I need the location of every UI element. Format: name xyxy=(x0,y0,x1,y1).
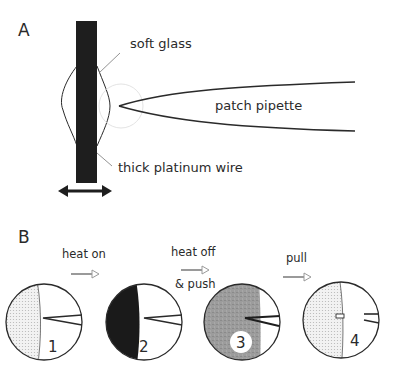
step-1-circle: 1 xyxy=(0,270,82,370)
step-2-circle: 2 xyxy=(100,270,182,370)
panel-a: A soft glass patch pipette thick platinu… xyxy=(18,20,355,197)
broken-tip-fragment xyxy=(336,314,344,318)
right-arrow-icon xyxy=(71,270,99,278)
figure-canvas: A soft glass patch pipette thick platinu… xyxy=(0,0,396,370)
transition-2-label-2: & push xyxy=(175,277,216,291)
panel-b: B heat on heat off & push pull 1 xyxy=(0,227,379,370)
soft-glass-left-outline xyxy=(61,66,77,146)
step-number: 3 xyxy=(236,334,246,352)
step-number: 1 xyxy=(48,338,58,356)
panel-a-label: A xyxy=(18,20,30,40)
right-arrow-icon xyxy=(181,266,209,274)
platinum-wire xyxy=(76,21,97,183)
transition-2-label: heat off xyxy=(171,245,217,259)
transition-3-label: pull xyxy=(286,251,307,265)
wire-leader xyxy=(97,153,112,166)
double-headed-arrow-icon xyxy=(58,185,112,197)
soft-glass-leader xyxy=(99,53,120,73)
transition-1-label: heat on xyxy=(62,247,106,261)
thick-platinum-wire-label: thick platinum wire xyxy=(118,160,243,175)
step-number: 4 xyxy=(350,332,360,350)
step-4-circle: 4 xyxy=(295,270,379,370)
step-number: 2 xyxy=(139,338,149,356)
panel-b-label: B xyxy=(18,227,30,247)
soft-glass-label: soft glass xyxy=(130,36,192,51)
patch-pipette-label: patch pipette xyxy=(215,98,302,113)
right-arrow-icon xyxy=(283,273,311,281)
